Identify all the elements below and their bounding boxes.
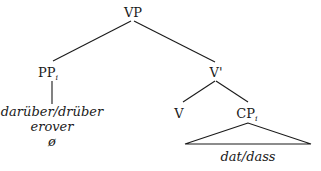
terminal-daruber: darüber/drüber [1,104,104,119]
terminal-null: ø [47,134,56,149]
branch-vbar-cp [216,81,248,102]
node-cp: CPi [236,106,258,123]
branch-vbar-v [183,81,215,102]
branch-vp-vbar [134,21,215,62]
syntax-tree: VP PPi V' V CPi darüber/drüber erover ø … [0,0,321,171]
terminal-dat-dass: dat/dass [220,149,275,164]
node-vp: VP [123,5,142,20]
node-v: V [173,106,184,121]
cp-triangle [185,123,311,144]
node-vbar: V' [209,65,223,80]
node-pp: PPi [38,65,59,82]
branch-vp-pp [53,21,131,61]
terminal-erover: erover [31,119,75,134]
